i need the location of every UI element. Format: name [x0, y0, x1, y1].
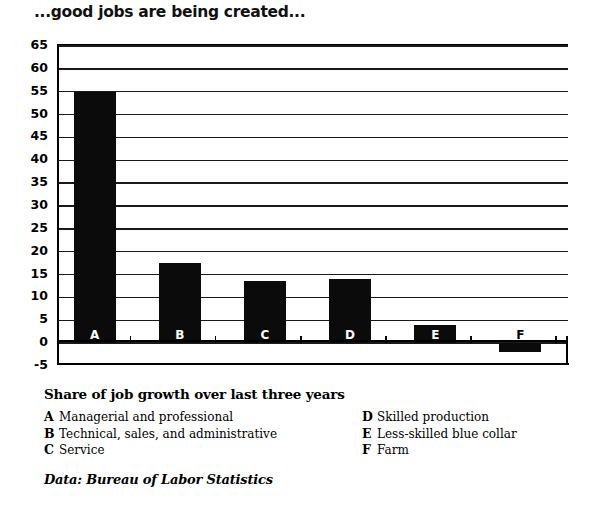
legend-item: BTechnical, sales, and administrative [44, 426, 277, 443]
y-axis-tick-label: -5 [34, 357, 48, 372]
chart-plot-wrapper: ABCDEF -505101520253035404550556065 [0, 36, 590, 376]
legend-column-right: DSkilled productionELess-skilled blue co… [362, 409, 517, 459]
legend-column-left: AManagerial and professionalBTechnical, … [44, 409, 277, 459]
legend-item-label: Less-skilled blue collar [377, 426, 517, 443]
legend-item-key: A [44, 409, 59, 426]
legend-item-key: F [362, 442, 377, 459]
y-axis-tick-label: 40 [31, 151, 48, 166]
legend-item-key: C [44, 442, 59, 459]
legend-item: ELess-skilled blue collar [362, 426, 517, 443]
y-axis-tick-label: 65 [31, 37, 48, 52]
legend-item: CService [44, 442, 277, 459]
y-axis-tick-label: 60 [31, 60, 48, 75]
page-title: ...good jobs are being created... [34, 3, 305, 21]
y-axis-tick-label: 45 [31, 128, 48, 143]
y-axis-tick-label: 0 [39, 334, 48, 349]
y-axis-tick-label: 30 [31, 197, 48, 212]
legend-item: AManagerial and professional [44, 409, 277, 426]
legend-item-label: Skilled production [377, 409, 489, 426]
legend-item-label: Service [59, 442, 105, 459]
chart-legend: Share of job growth over last three year… [44, 386, 584, 467]
y-axis-tick-label: 50 [31, 106, 48, 121]
y-axis-tick-label: 20 [31, 243, 48, 258]
legend-item-label: Farm [377, 442, 409, 459]
zero-axis-line [57, 340, 568, 342]
legend-item-key: E [362, 426, 377, 443]
legend-title: Share of job growth over last three year… [44, 386, 584, 402]
y-axis-tick-label: 25 [31, 220, 48, 235]
y-axis-tick-label: 10 [31, 288, 48, 303]
legend-item: FFarm [362, 442, 517, 459]
legend-item-key: B [44, 426, 59, 443]
y-axis-tick-label: 15 [31, 266, 48, 281]
source-note: Data: Bureau of Labor Statistics [44, 472, 273, 487]
legend-item-label: Technical, sales, and administrative [59, 426, 277, 443]
legend-item: DSkilled production [362, 409, 517, 426]
legend-columns: AManagerial and professionalBTechnical, … [44, 409, 584, 467]
y-axis-tick-labels: -505101520253035404550556065 [0, 44, 590, 364]
y-axis-tick-label: 5 [39, 311, 48, 326]
legend-item-key: D [362, 409, 377, 426]
y-axis-tick-label: 55 [31, 83, 48, 98]
legend-item-label: Managerial and professional [59, 409, 233, 426]
y-axis-tick-label: 35 [31, 174, 48, 189]
